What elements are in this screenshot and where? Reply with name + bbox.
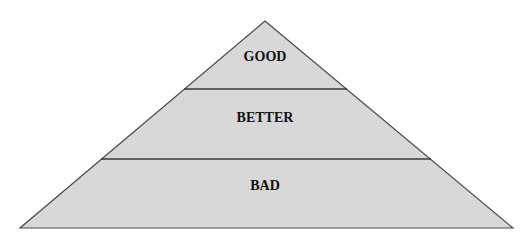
level-label-better: BETTER	[237, 110, 295, 125]
level-label-bad: BAD	[250, 178, 280, 193]
pyramid-diagram: GOOD BETTER BAD	[0, 0, 529, 240]
level-label-good: GOOD	[244, 49, 287, 64]
